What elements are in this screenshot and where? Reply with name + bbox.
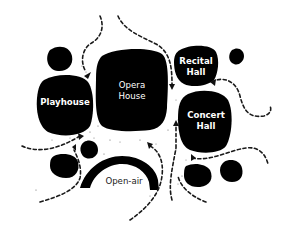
arrow-icon — [78, 133, 84, 140]
ancillary-structure-center — [80, 140, 98, 158]
ancillary-structure-se-1 — [184, 164, 212, 187]
arrow-icon — [169, 84, 175, 90]
opera-house-label-line1: Opera — [119, 80, 145, 90]
ancillary-structure-sw — [50, 154, 79, 178]
concert-hall-label-line2: Hall — [197, 121, 216, 131]
arrow-icon — [191, 154, 196, 161]
playhouse-label: Playhouse — [40, 97, 90, 107]
ancillary-structure-ne — [229, 48, 244, 64]
ancillary-structure-nw — [47, 47, 72, 71]
recital-hall-label-line2: Hall — [187, 67, 206, 77]
venue-circulation-diagram: Opera House Playhouse Recital Hall Conce… — [0, 0, 290, 240]
concert-hall-label-line1: Concert — [187, 110, 225, 120]
path-concert-west — [170, 124, 176, 200]
arrow-icon — [84, 72, 91, 79]
ancillary-structure-se-2 — [220, 160, 243, 182]
recital-hall-label-line1: Recital — [179, 56, 212, 66]
opera-house-label-line2: House — [119, 91, 146, 101]
open-air-label: Open-air — [105, 176, 143, 186]
path-west — [22, 136, 80, 150]
